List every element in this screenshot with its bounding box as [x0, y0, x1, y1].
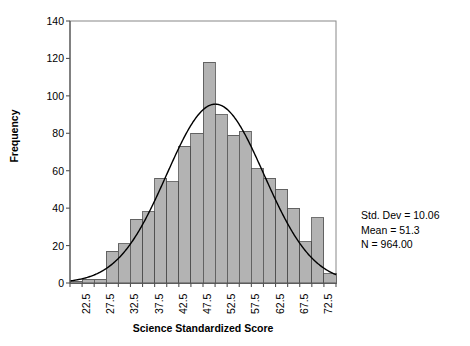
x-axis-tick-label: 22.5 [80, 294, 92, 314]
x-axis-tick-label: 27.5 [104, 294, 116, 314]
std-dev-text: Std. Dev = 10.06 [361, 208, 440, 223]
x-axis-tick-label: 57.5 [249, 294, 261, 314]
x-axis-tick-label: 32.5 [128, 294, 140, 314]
x-axis-tick-label: 67.5 [298, 294, 310, 314]
histogram-figure: Frequency 020406080100120140 22.527.532.… [0, 0, 470, 346]
x-axis-tick-label: 37.5 [153, 294, 165, 314]
mean-text: Mean = 51.3 [361, 223, 440, 238]
x-axis-tick-label: 47.5 [201, 294, 213, 314]
x-axis-tick-label: 52.5 [225, 294, 237, 314]
statistics-annotation: Std. Dev = 10.06 Mean = 51.3 N = 964.00 [361, 208, 440, 252]
x-axis-tick-label: 72.5 [322, 294, 334, 314]
x-axis-tick-labels: 22.527.532.537.542.547.552.557.562.567.5… [0, 0, 470, 346]
x-axis-title: Science Standardized Score [70, 322, 336, 334]
n-text: N = 964.00 [361, 237, 440, 252]
x-axis-tick-label: 62.5 [274, 294, 286, 314]
x-axis-tick-label: 42.5 [177, 294, 189, 314]
